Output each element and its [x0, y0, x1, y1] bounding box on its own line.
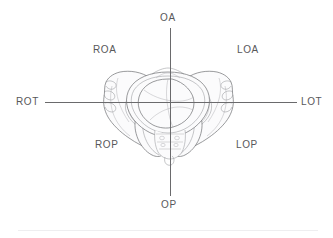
pelvis-bone-group	[104, 68, 234, 165]
fetal-position-diagram: OA OP ROT LOT ROA LOA ROP LOP	[0, 0, 333, 238]
footer-divider	[18, 230, 318, 231]
quadrant-label-rop: ROP	[95, 139, 118, 150]
axis-label-op: OP	[161, 199, 177, 210]
quadrant-label-loa: LOA	[237, 44, 259, 55]
axis-label-oa: OA	[160, 12, 176, 23]
axis-label-rot: ROT	[16, 96, 39, 107]
axis-label-lot: LOT	[301, 96, 322, 107]
quadrant-label-roa: ROA	[93, 44, 116, 55]
quadrant-label-lop: LOP	[236, 139, 258, 150]
